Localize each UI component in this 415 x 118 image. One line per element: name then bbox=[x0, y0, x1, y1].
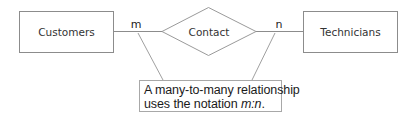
entity-customers: Customers bbox=[20, 12, 114, 53]
cardinality-m-label: m bbox=[131, 18, 142, 31]
callout-line-2-prefix: uses the notation bbox=[144, 97, 241, 111]
callout-pointer-m bbox=[138, 33, 163, 80]
entity-customers-label: Customers bbox=[38, 26, 94, 38]
callout-line-1: A many-to-many relationship bbox=[144, 83, 277, 97]
entity-technicians-label: Technicians bbox=[319, 26, 380, 38]
callout-line-2-suffix: . bbox=[261, 97, 264, 111]
callout-notation: m:n bbox=[241, 97, 262, 111]
callout-box: A many-to-many relationship uses the not… bbox=[139, 80, 282, 112]
relationship-label: Contact bbox=[189, 26, 230, 38]
cardinality-n-label: n bbox=[276, 18, 283, 31]
relationship-contact: Contact bbox=[162, 8, 256, 56]
entity-technicians: Technicians bbox=[304, 12, 398, 53]
callout-pointer-n bbox=[252, 33, 275, 80]
callout-line-2: uses the notation m:n. bbox=[144, 97, 277, 111]
